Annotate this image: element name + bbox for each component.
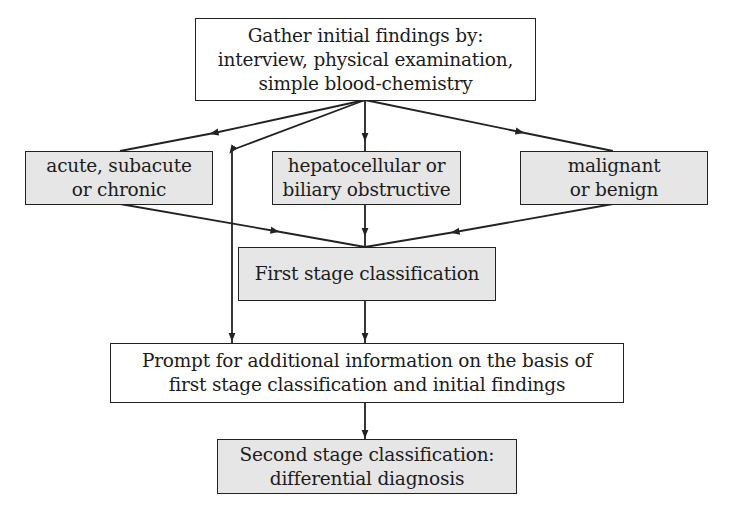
node-gather-line-2: interview, physical examination, bbox=[218, 48, 513, 72]
node-malignant-line-1: malignant bbox=[568, 154, 661, 178]
node-hepatocellular-biliary: hepatocellular or biliary obstructive bbox=[272, 151, 461, 205]
node-acute-line-2: or chronic bbox=[72, 178, 166, 202]
node-second-stage-line-2: differential diagnosis bbox=[270, 467, 464, 491]
node-acute-subacute-chronic: acute, subacute or chronic bbox=[25, 151, 213, 205]
node-prompt-additional-info: Prompt for additional information on the… bbox=[110, 343, 624, 403]
node-first-stage-classification: First stage classification bbox=[238, 247, 496, 301]
flowchart-canvas: Gather initial findings by: interview, p… bbox=[0, 0, 729, 517]
edge-gather-to-acute bbox=[120, 100, 365, 151]
node-second-stage-classification: Second stage classification: differentia… bbox=[217, 439, 517, 494]
node-hepato-line-1: hepatocellular or bbox=[288, 154, 446, 178]
node-gather-initial-findings: Gather initial findings by: interview, p… bbox=[195, 18, 536, 101]
edge-gather-to-malignant bbox=[365, 100, 613, 151]
node-malignant-line-2: or benign bbox=[570, 178, 658, 202]
node-gather-line-3: simple blood-chemistry bbox=[258, 72, 472, 96]
node-gather-line-1: Gather initial findings by: bbox=[248, 24, 483, 48]
node-hepato-line-2: biliary obstructive bbox=[283, 178, 451, 202]
edge-malignant-to-first-stage bbox=[365, 204, 613, 247]
edge-gather-to-prompt bbox=[232, 100, 365, 343]
edge-acute-to-first-stage bbox=[120, 204, 365, 247]
node-first-stage-line-1: First stage classification bbox=[255, 262, 480, 286]
node-acute-line-1: acute, subacute bbox=[46, 154, 191, 178]
node-prompt-line-2: first stage classification and initial f… bbox=[169, 373, 566, 397]
node-prompt-line-1: Prompt for additional information on the… bbox=[142, 349, 592, 373]
node-second-stage-line-1: Second stage classification: bbox=[240, 443, 495, 467]
node-malignant-benign: malignant or benign bbox=[520, 151, 708, 205]
